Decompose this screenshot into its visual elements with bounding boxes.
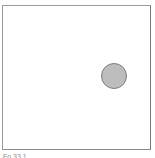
- ball[interactable]: [101, 63, 127, 89]
- game-canvas[interactable]: [2, 5, 151, 150]
- caption-text: Fo 33 1: [3, 153, 27, 158]
